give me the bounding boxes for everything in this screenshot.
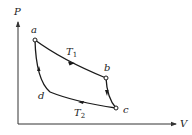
label-d: d xyxy=(38,90,44,101)
label-a: a xyxy=(31,24,37,35)
label-c: c xyxy=(123,104,129,115)
x-axis-label: V xyxy=(180,118,189,129)
pv-diagram-canvas: P V a b c d T1 T2 xyxy=(0,0,192,135)
point-b xyxy=(104,76,108,80)
label-b: b xyxy=(104,62,110,73)
point-a xyxy=(33,38,37,42)
point-c xyxy=(114,106,118,110)
label-t1: T1 xyxy=(66,46,77,59)
y-axis-label: P xyxy=(13,6,21,17)
isotherm-t2-curve xyxy=(50,92,116,108)
pv-diagram: P V a b c d T1 T2 xyxy=(0,0,192,135)
label-t2: T2 xyxy=(74,107,85,120)
adiabat-da-curve xyxy=(35,40,50,92)
